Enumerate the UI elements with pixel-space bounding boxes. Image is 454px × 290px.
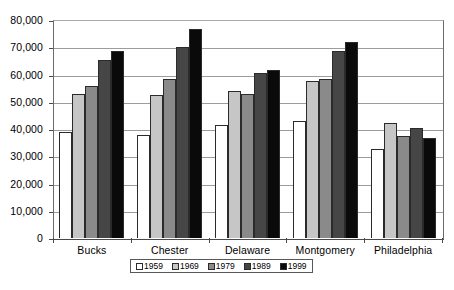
bar	[397, 136, 410, 238]
legend-label: 1959	[144, 262, 163, 271]
legend-item: 1999	[280, 262, 307, 271]
y-axis-tick-label: 60,000	[10, 69, 43, 80]
x-axis-tick	[53, 238, 54, 243]
x-axis-category-labels: BucksChesterDelawareMontgomeryPhiladelph…	[53, 244, 442, 258]
x-axis-tick	[364, 238, 365, 243]
x-axis-tick	[209, 238, 210, 243]
bar	[215, 125, 228, 238]
bar	[371, 149, 384, 238]
bar	[59, 132, 72, 238]
bar	[150, 95, 163, 238]
legend-item: 1979	[208, 262, 235, 271]
legend-swatch-icon	[280, 263, 287, 270]
bar	[306, 81, 319, 238]
chart-legend: 19591969197919891999	[130, 259, 313, 273]
bar	[332, 51, 345, 238]
y-axis-tick-label: 50,000	[10, 97, 43, 108]
y-axis-tick-label: 20,000	[10, 178, 43, 189]
bar	[345, 42, 358, 238]
legend-label: 1989	[252, 262, 271, 271]
y-axis-tick-label: 40,000	[10, 124, 43, 135]
y-axis-tick-label: 70,000	[10, 42, 43, 53]
y-axis-tick-label: 10,000	[10, 206, 43, 217]
legend-swatch-icon	[172, 263, 179, 270]
legend-label: 1999	[288, 262, 307, 271]
legend-item: 1959	[136, 262, 163, 271]
legend-swatch-icon	[244, 263, 251, 270]
bar	[241, 94, 254, 238]
bar-group	[209, 20, 287, 238]
bar	[72, 94, 85, 238]
x-axis-tick	[442, 238, 443, 243]
y-axis-tick-label: 0	[37, 233, 43, 244]
y-axis-tick-label: 80,000	[10, 15, 43, 26]
bar	[293, 121, 306, 238]
bar	[410, 128, 423, 238]
bar	[423, 138, 436, 238]
legend-label: 1969	[180, 262, 199, 271]
bar	[85, 86, 98, 238]
bar	[228, 91, 241, 238]
legend-swatch-icon	[136, 263, 143, 270]
bar	[163, 79, 176, 238]
bar	[267, 70, 280, 238]
bar	[111, 51, 124, 238]
bar-group	[286, 20, 364, 238]
y-axis-labels: 010,00020,00030,00040,00050,00060,00070,…	[0, 20, 48, 238]
x-axis-category-label: Philadelphia	[374, 244, 432, 257]
bar-group	[364, 20, 442, 238]
bar	[384, 123, 397, 238]
x-axis-tick	[131, 238, 132, 243]
grouped-bar-chart: 010,00020,00030,00040,00050,00060,00070,…	[0, 0, 454, 290]
legend-label: 1979	[216, 262, 235, 271]
legend-item: 1969	[172, 262, 199, 271]
bar	[98, 60, 111, 238]
bar	[319, 79, 332, 238]
bar-group	[131, 20, 209, 238]
x-axis-category-label: Delaware	[225, 244, 270, 257]
x-axis-category-label: Chester	[151, 244, 188, 257]
bar	[176, 47, 189, 238]
bar-group	[53, 20, 131, 238]
y-axis-tick-label: 30,000	[10, 151, 43, 162]
x-axis-category-label: Montgomery	[296, 244, 355, 257]
legend-item: 1989	[244, 262, 271, 271]
x-axis-tick	[286, 238, 287, 243]
legend-swatch-icon	[208, 263, 215, 270]
bar	[254, 73, 267, 238]
bar	[137, 135, 150, 238]
x-axis-category-label: Bucks	[77, 244, 106, 257]
bars-layer	[53, 20, 442, 238]
bar	[189, 29, 202, 238]
